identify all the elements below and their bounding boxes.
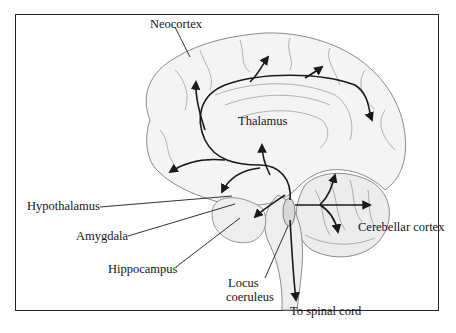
label-thalamus: Thalamus (238, 115, 287, 128)
locus-coeruleus-structure (283, 198, 295, 226)
label-spinal-cord: To spinal cord (290, 305, 361, 318)
label-hypothalamus: Hypothalamus (27, 200, 100, 213)
label-locus-line1: Locus (228, 277, 259, 290)
label-neocortex: Neocortex (150, 18, 202, 31)
label-cerebellar-cortex: Cerebellar cortex (358, 221, 444, 234)
label-locus-line2: coeruleus (226, 291, 274, 304)
label-amygdala: Amygdala (76, 230, 128, 243)
label-hippocampus: Hippocampus (108, 263, 177, 276)
